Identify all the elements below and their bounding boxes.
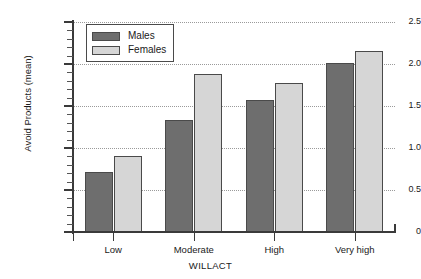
chart-legend: Males Females bbox=[86, 24, 174, 62]
legend-swatch-females-icon bbox=[92, 46, 120, 55]
y-axis-tick-label: 2.5 bbox=[363, 17, 421, 26]
x-axis-tick bbox=[194, 233, 195, 241]
y-axis-minor-tick bbox=[67, 224, 73, 225]
x-axis-title: WILLACT bbox=[0, 260, 421, 271]
x-axis-tick-label: Low bbox=[105, 245, 122, 255]
x-axis-line bbox=[72, 231, 396, 233]
bar-males-high bbox=[246, 100, 274, 232]
y-axis-tick bbox=[64, 21, 73, 23]
y-axis-minor-tick bbox=[67, 182, 73, 183]
legend-item-males: Males bbox=[92, 29, 166, 43]
y-axis-minor-tick bbox=[67, 131, 73, 132]
y-axis-minor-tick bbox=[67, 114, 73, 115]
y-axis-tick bbox=[64, 105, 73, 107]
y-axis-minor-tick bbox=[67, 89, 73, 90]
y-axis-minor-tick bbox=[67, 30, 73, 31]
y-axis-tick-label: 2.0 bbox=[363, 59, 421, 68]
y-axis-tick bbox=[64, 63, 73, 65]
x-axis-tick-label: Very high bbox=[335, 245, 375, 255]
y-axis-tick bbox=[64, 147, 73, 149]
x-axis-tick bbox=[113, 233, 114, 241]
y-axis-minor-tick bbox=[67, 156, 73, 157]
y-axis-minor-tick bbox=[67, 47, 73, 48]
y-axis-minor-tick bbox=[67, 215, 73, 216]
y-axis-minor-tick bbox=[67, 173, 73, 174]
legend-label-females: Females bbox=[128, 45, 166, 55]
y-axis-tick-label: 1.0 bbox=[363, 143, 421, 152]
x-axis-tick bbox=[274, 233, 275, 241]
bar-females-very-high bbox=[355, 51, 383, 232]
x-axis-origin-tick bbox=[73, 233, 74, 241]
bar-females-moderate bbox=[194, 74, 222, 232]
y-axis-minor-tick bbox=[67, 56, 73, 57]
y-axis-title: Avoid Products (mean) bbox=[22, 29, 33, 179]
bar-males-moderate bbox=[165, 120, 193, 232]
y-axis-minor-tick bbox=[67, 207, 73, 208]
bar-males-very-high bbox=[326, 63, 354, 232]
y-axis-line bbox=[72, 20, 74, 234]
y-axis-minor-tick bbox=[67, 123, 73, 124]
y-axis-minor-tick bbox=[67, 72, 73, 73]
gridline bbox=[73, 22, 395, 23]
y-axis-minor-tick bbox=[67, 98, 73, 99]
y-axis-minor-tick bbox=[67, 39, 73, 40]
bar-females-low bbox=[114, 156, 142, 232]
x-axis-tick-label: Moderate bbox=[174, 245, 214, 255]
legend-item-females: Females bbox=[92, 43, 166, 57]
legend-label-males: Males bbox=[128, 31, 155, 41]
x-axis-tick-label: High bbox=[264, 245, 284, 255]
bar-males-low bbox=[85, 172, 113, 232]
legend-swatch-males-icon bbox=[92, 32, 120, 41]
y-axis-minor-tick bbox=[67, 198, 73, 199]
bar-females-high bbox=[275, 83, 303, 232]
y-axis-minor-tick bbox=[67, 140, 73, 141]
y-axis-tick-label: 0.5 bbox=[363, 185, 421, 194]
x-axis-tick bbox=[355, 233, 356, 241]
y-axis-minor-tick bbox=[67, 165, 73, 166]
y-axis-tick bbox=[64, 189, 73, 191]
bar-chart: 00.51.01.52.02.5 LowModerateHighVery hig… bbox=[0, 0, 421, 279]
y-axis-tick bbox=[64, 231, 73, 233]
y-axis-tick-label: 0 bbox=[363, 227, 421, 236]
y-axis-tick-label: 1.5 bbox=[363, 101, 421, 110]
y-axis-minor-tick bbox=[67, 81, 73, 82]
